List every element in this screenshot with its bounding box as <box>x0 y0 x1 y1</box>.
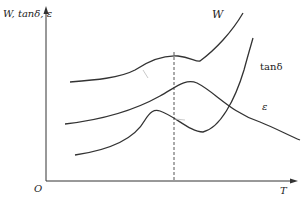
leader-tick <box>143 70 148 78</box>
curve-w-label: W <box>212 8 225 21</box>
x-axis-label: T <box>280 185 288 196</box>
curve-tan-delta <box>75 38 253 155</box>
y-axis-label: W, tanδ, ε <box>3 8 52 19</box>
curve-w <box>70 13 243 82</box>
x-axis-arrow-icon <box>290 179 298 184</box>
curve-epsilon-label: ε <box>262 101 267 112</box>
origin-label: O <box>34 183 42 194</box>
diagram-canvas: W, tanδ, ε O T W tanδ ε <box>0 0 308 207</box>
curve-tan-delta-label: tanδ <box>260 61 282 72</box>
